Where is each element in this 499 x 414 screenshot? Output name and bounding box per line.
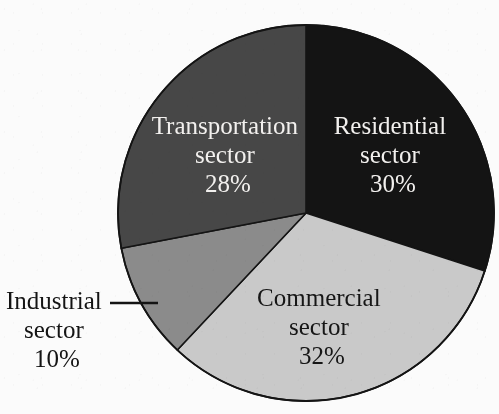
slice-label-transportation-line1: Transportation: [152, 112, 299, 139]
slice-label-industrial-line1: Industrial: [6, 287, 102, 314]
pie-chart-svg: Residential sector 30% Transportation se…: [0, 0, 499, 414]
slice-label-residential-line2: sector: [360, 141, 420, 168]
slice-value-industrial: 10%: [34, 345, 80, 372]
slice-value-transportation: 28%: [205, 170, 251, 197]
slice-label-commercial-line2: sector: [289, 313, 349, 340]
slice-value-residential: 30%: [370, 170, 416, 197]
slice-label-transportation-line2: sector: [195, 141, 255, 168]
slice-label-commercial-line1: Commercial: [257, 284, 381, 311]
pie-chart-figure: Residential sector 30% Transportation se…: [0, 0, 499, 414]
slice-label-industrial-line2: sector: [24, 316, 84, 343]
slice-label-residential-line1: Residential: [334, 112, 447, 139]
slice-value-commercial: 32%: [299, 342, 345, 369]
slice-label-industrial: Industrial sector 10%: [6, 287, 108, 372]
